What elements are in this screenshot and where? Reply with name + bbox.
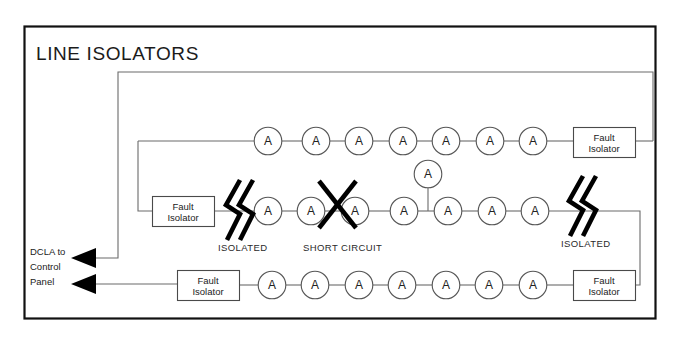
device-label: A [442,134,450,148]
dcla-label-line-1: DCLA to [30,246,65,257]
page-title: LINE ISOLATORS [36,43,199,64]
fault-isolator-label-line2: Isolator [588,286,619,297]
fault-isolator-label-line2: Isolator [588,143,619,154]
device-node-bottom-row[interactable]: A [345,271,373,299]
device-node-top-row[interactable]: A [519,127,547,155]
device-node-middle-row[interactable]: A [478,197,506,225]
line-isolators-diagram: LINE ISOLATORS [0,0,677,344]
device-node-bottom-row[interactable]: A [475,271,503,299]
device-node-bottom-row[interactable]: A [519,271,547,299]
device-node-bottom-row[interactable]: A [301,271,329,299]
device-node-bottom-row[interactable]: A [388,271,416,299]
dcla-label-line-3: Panel [30,276,54,287]
device-label: A [444,204,452,218]
device-label: A [488,204,496,218]
device-label: A [399,134,407,148]
middle-left-isolator[interactable]: FaultIsolator [153,197,215,227]
device-label: A [424,167,432,181]
device-label: A [485,278,493,292]
device-node-top-row[interactable]: A [345,127,373,155]
device-label: A [307,204,315,218]
device-label: A [398,278,406,292]
fault-isolator-label-line1: Fault [172,201,193,212]
device-node-middle-row[interactable]: A [254,197,282,225]
device-node-middle-row[interactable]: A [390,197,418,225]
bottom-right-isolator[interactable]: FaultIsolator [574,271,636,301]
device-label: A [442,278,450,292]
fault-isolator-label-line1: Fault [593,132,614,143]
fault-isolator-label-line1: Fault [593,275,614,286]
device-label: A [355,134,363,148]
top-right-isolator[interactable]: FaultIsolator [574,128,636,158]
bottom-left-isolator[interactable]: FaultIsolator [178,271,240,301]
fault-isolator-label-line2: Isolator [167,212,198,223]
device-label: A [264,204,272,218]
device-label: A [529,134,537,148]
device-node-top-row[interactable]: A [432,127,460,155]
fault-isolator-label-line1: Fault [197,275,218,286]
device-node-bottom-row[interactable]: A [432,271,460,299]
device-label: A [351,204,359,218]
short-circuit-label: SHORT CIRCUIT [303,242,382,253]
dcla-label-line-2: Control [30,261,61,272]
device-node-top-row[interactable]: A [476,127,504,155]
device-node-top-row[interactable]: A [389,127,417,155]
device-label: A [486,134,494,148]
device-node-top-row[interactable]: A [254,127,282,155]
device-label: A [531,204,539,218]
fault-isolator-label-line2: Isolator [192,286,223,297]
device-label: A [400,204,408,218]
device-node-middle-row[interactable]: A [434,197,462,225]
isolated-label-left: ISOLATED [218,242,267,253]
device-label: A [529,278,537,292]
device-label: A [264,134,272,148]
isolated-label-right: ISOLATED [561,238,610,249]
device-node-middle-row[interactable]: A [521,197,549,225]
device-label: A [355,278,363,292]
diagram-canvas: LINE ISOLATORS [0,0,677,344]
device-node-middle-row-branch[interactable]: A [414,160,442,188]
device-node-top-row[interactable]: A [302,127,330,155]
device-label: A [311,278,319,292]
device-label: A [268,278,276,292]
device-node-bottom-row[interactable]: A [258,271,286,299]
device-node-middle-row[interactable]: A [297,197,325,225]
device-label: A [312,134,320,148]
